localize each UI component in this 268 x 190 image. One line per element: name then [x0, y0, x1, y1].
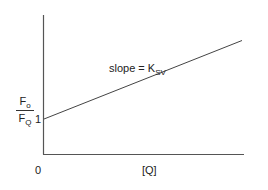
chart-plot [0, 0, 268, 190]
x-axis-label: [Q] [142, 164, 157, 176]
data-line [44, 41, 242, 120]
slope-annotation: slope = KSV [109, 62, 166, 74]
y-tick-1: 1 [35, 113, 41, 125]
y-tick-0: 0 [35, 164, 41, 176]
y-axis-label: Fo FQ [16, 95, 34, 126]
